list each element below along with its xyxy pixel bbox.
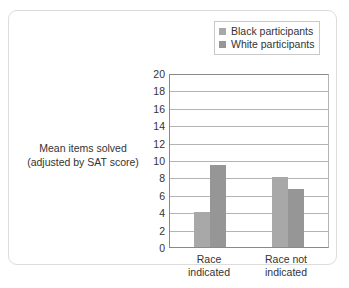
bar-black-participants-group-1 [272,177,288,247]
y-axis-tick-label: 8 [141,173,165,183]
legend-swatch-white-participants [219,41,226,48]
y-axis-tick-label: 18 [141,86,165,96]
bar-white-participants-group-0 [210,165,226,247]
x-axis-category-label-1-line1: Race not [241,253,331,266]
y-axis-tick-label: 4 [141,208,165,218]
y-axis-tick-label: 12 [141,139,165,149]
y-axis-tick-label: 0 [141,243,165,253]
bar-black-participants-group-0 [194,212,210,247]
legend-item-white-participants: White participants [219,38,314,51]
legend-item-black-participants: Black participants [219,25,314,38]
legend-label-white-participants: White participants [231,38,314,51]
y-axis-tick-labels: 20181614121086420 [139,74,165,248]
y-axis-tick-label: 16 [141,104,165,114]
y-axis-tick-label: 20 [141,69,165,79]
y-axis-title: Mean items solved (adjusted by SAT score… [19,141,147,169]
gridline [170,109,328,110]
gridline [170,161,328,162]
x-axis-category-label-1-line2: indicated [241,266,331,279]
y-axis-title-line2: (adjusted by SAT score) [19,155,147,169]
plot-area [169,74,329,248]
bar-white-participants-group-1 [288,189,304,247]
gridline [170,91,328,92]
gridline [170,178,328,179]
x-axis-category-label-1: Race not indicated [241,253,331,279]
legend-swatch-black-participants [219,28,226,35]
gridline [170,196,328,197]
y-axis-tick-label: 2 [141,226,165,236]
legend-label-black-participants: Black participants [231,25,313,38]
y-axis-tick-label: 10 [141,156,165,166]
chart-legend: Black participants White participants [214,21,320,55]
gridline [170,144,328,145]
figure-card: Black participants White participants Me… [8,10,337,265]
y-axis-title-line1: Mean items solved [19,141,147,155]
gridline [170,126,328,127]
y-axis-tick-label: 6 [141,191,165,201]
y-axis-tick-label: 14 [141,121,165,131]
